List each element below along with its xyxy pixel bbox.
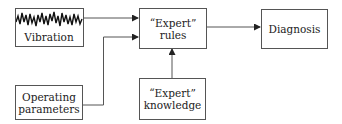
- expert-rules-box: “Expert” rules: [139, 8, 207, 49]
- expert-knowledge-box: “Expert” knowledge: [139, 78, 206, 120]
- operating-parameters-line1: Operating: [22, 91, 76, 103]
- diagnosis-box: Diagnosis: [261, 9, 328, 49]
- expert-rules-line2: rules: [160, 29, 187, 41]
- expert-knowledge-line2: knowledge: [144, 99, 202, 111]
- expert-knowledge-line1: “Expert”: [149, 87, 196, 99]
- vibration-label: Vibration: [15, 31, 83, 43]
- operating-parameters-line2: parameters: [18, 103, 79, 115]
- vibration-waveform-icon: [16, 10, 83, 29]
- diagnosis-label: Diagnosis: [269, 23, 321, 35]
- operating-parameters-box: Operating parameters: [15, 85, 83, 120]
- expert-rules-line1: “Expert”: [150, 17, 197, 29]
- edge-operating-to-rules: [82, 37, 138, 105]
